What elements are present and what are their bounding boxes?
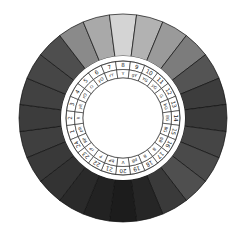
hue-number-label: 14 — [173, 114, 179, 122]
hue-circle-diagram: 123456789101112131415161718192021222324 … — [0, 0, 244, 235]
hue-abbreviation-label: Y — [121, 71, 125, 76]
center-white-disc — [83, 78, 163, 158]
hue-abbreviation-label: BG — [165, 115, 170, 121]
hue-abbreviation-label: R — [76, 116, 81, 119]
center-disc — [83, 78, 163, 158]
hue-number-label: 2 — [67, 116, 73, 120]
hue-number-label: 8 — [121, 62, 125, 68]
hue-number-label: 20 — [119, 168, 127, 174]
hue-abbreviation-label: V — [121, 160, 124, 165]
